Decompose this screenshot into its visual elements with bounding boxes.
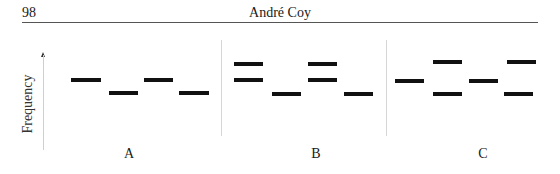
header-rule bbox=[22, 22, 538, 23]
frequency-bar-b bbox=[308, 78, 337, 82]
frequency-bar-b bbox=[234, 62, 263, 66]
frequency-bar-a bbox=[144, 78, 173, 82]
y-axis bbox=[43, 55, 44, 150]
panel-label-c: C bbox=[478, 146, 487, 162]
frequency-bar-c bbox=[507, 60, 536, 64]
frequency-bar-c bbox=[469, 79, 498, 83]
frequency-bar-c bbox=[395, 79, 424, 83]
panel-divider bbox=[386, 40, 387, 136]
panel-label-b: B bbox=[311, 146, 320, 162]
frequency-bar-c bbox=[504, 92, 533, 96]
y-axis-label: Frequency bbox=[20, 74, 36, 133]
frequency-bar-b bbox=[344, 92, 373, 96]
panel-label-a: A bbox=[124, 146, 134, 162]
frequency-bar-b bbox=[234, 78, 263, 82]
frequency-bar-a bbox=[109, 91, 138, 95]
frequency-bar-c bbox=[433, 60, 462, 64]
frequency-bar-b bbox=[308, 62, 337, 66]
frequency-bar-a bbox=[71, 78, 101, 82]
frequency-bar-a bbox=[179, 91, 209, 95]
running-head: André Coy bbox=[0, 5, 560, 21]
frequency-bar-c bbox=[433, 92, 462, 96]
frequency-bar-b bbox=[272, 92, 301, 96]
panel-divider bbox=[221, 40, 222, 136]
